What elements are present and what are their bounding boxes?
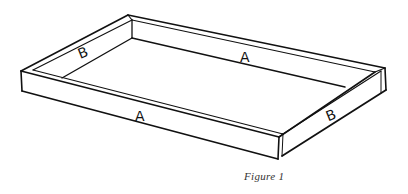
figure-caption: Figure 1	[244, 170, 284, 182]
front-board-top-outer-edge	[21, 71, 279, 137]
label-left-b: B	[75, 43, 90, 61]
label-front-a: A	[135, 108, 145, 124]
front-board-bottom-edge	[22, 91, 278, 159]
label-back-a: A	[240, 49, 250, 65]
frame-diagram: B A A B Figure 1	[0, 0, 408, 194]
front-left-corner-edge	[21, 71, 22, 91]
label-right-b: B	[323, 106, 338, 124]
front-board-top-inner-edge	[33, 70, 283, 134]
left-board-top-outer-edge	[21, 15, 128, 71]
rectangular-frame-drawing: B A A B	[0, 0, 408, 194]
back-board-top-outer-edge	[128, 15, 385, 68]
